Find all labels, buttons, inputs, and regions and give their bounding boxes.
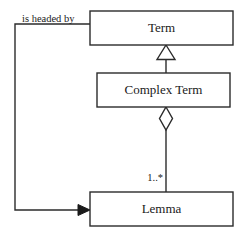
class-name-lemma: Lemma: [142, 201, 182, 216]
solid-arrow-icon: [78, 205, 90, 216]
association-label-is-headed-by: is headed by: [22, 13, 75, 24]
class-box-complex-term[interactable]: Complex Term: [97, 73, 230, 107]
multiplicity-label: 1..*: [147, 172, 163, 183]
uml-class-diagram: is headed by 1..* Term Complex Term Lemm…: [0, 0, 249, 241]
hollow-diamond-icon: [160, 107, 173, 130]
class-name-complex-term: Complex Term: [125, 82, 203, 97]
association-is-headed-by-path: [15, 24, 90, 210]
association-is-headed-by[interactable]: is headed by: [15, 13, 90, 216]
class-name-term: Term: [148, 20, 175, 35]
class-box-term[interactable]: Term: [90, 11, 233, 45]
generalization-complex-term-to-term[interactable]: [157, 45, 175, 73]
diagram-canvas: is headed by 1..* Term Complex Term Lemm…: [0, 0, 249, 241]
class-box-lemma[interactable]: Lemma: [90, 192, 233, 226]
aggregation-complex-term-to-lemma[interactable]: 1..*: [147, 107, 172, 192]
hollow-triangle-icon: [157, 45, 175, 60]
